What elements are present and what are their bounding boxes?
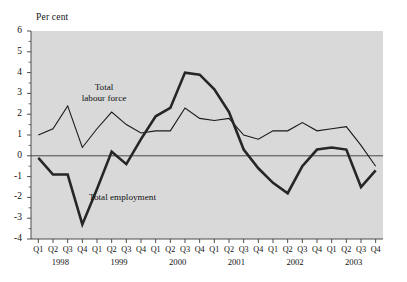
y-axis-tick-label: 0 [6, 150, 22, 160]
plot-background [31, 31, 383, 239]
x-axis-year-label: 1998 [40, 257, 80, 267]
y-axis-tick-label: -4 [6, 233, 22, 243]
x-axis-tick-marks [38, 239, 375, 243]
annotation-total-labour-force: Total labour force [71, 82, 137, 103]
y-axis-tick-label: 3 [6, 87, 22, 97]
annotation-labour-line1: Total [71, 82, 137, 93]
y-axis-tick-label: 2 [6, 108, 22, 118]
y-axis-tick-label: 4 [6, 67, 22, 77]
annotation-total-employment: Total employment [89, 192, 156, 203]
y-axis-tick-label: -2 [6, 191, 22, 201]
x-axis-year-label: 2001 [216, 257, 256, 267]
chart-container: Per cent 6543210-1-2-3-4 Q1Q2Q3Q4Q1Q2Q3Q… [0, 0, 407, 282]
annotation-labour-line2: labour force [71, 93, 137, 104]
y-axis-tick-marks [27, 31, 31, 239]
x-axis-year-label: 1999 [99, 257, 139, 267]
x-axis-year-label: 2002 [275, 257, 315, 267]
annotation-employment-line1: Total employment [89, 192, 156, 203]
line-chart-plot [0, 0, 407, 282]
x-axis-year-label: 2003 [334, 257, 374, 267]
y-axis-tick-label: 6 [6, 25, 22, 35]
x-axis-quarter-label: Q4 [367, 245, 385, 254]
y-axis-tick-label: 5 [6, 46, 22, 56]
y-axis-tick-label: -1 [6, 171, 22, 181]
y-axis-tick-label: -3 [6, 212, 22, 222]
y-axis-tick-label: 1 [6, 129, 22, 139]
x-axis-year-label: 2000 [158, 257, 198, 267]
